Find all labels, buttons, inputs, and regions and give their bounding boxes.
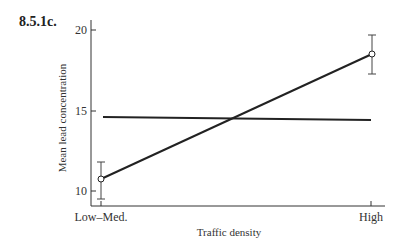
x-axis-title: Traffic density (197, 226, 262, 238)
y-axis-title: Mean lead concentration (56, 63, 68, 172)
y-ticks: 20 15 10 (75, 23, 96, 198)
x-ticks: Low–Med. High (75, 201, 384, 224)
flat-line-series (103, 117, 371, 120)
x-tick-label: Low–Med. (75, 210, 128, 224)
data-point-marker (98, 176, 104, 182)
y-tick-label: 20 (75, 23, 87, 37)
y-tick-label: 15 (75, 104, 87, 118)
chart: 20 15 10 Low–Med. High Traffic density M… (0, 0, 410, 248)
y-tick-label: 10 (75, 184, 87, 198)
data-point-marker (369, 51, 375, 57)
x-tick-label: High (359, 210, 383, 224)
